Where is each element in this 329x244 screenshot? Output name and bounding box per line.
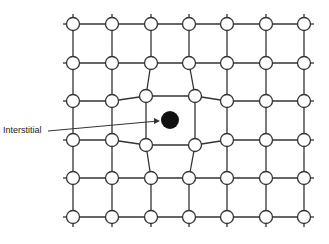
lattice-atom <box>298 134 311 147</box>
pointer-arrow-line <box>48 121 158 131</box>
lattice-atom <box>298 95 311 108</box>
lattice-atom <box>260 211 273 224</box>
lattice-atom <box>183 57 196 70</box>
interstitial-atom <box>161 111 179 129</box>
lattice-atom <box>221 211 234 224</box>
lattice-atom <box>106 211 119 224</box>
lattice-atom <box>298 211 311 224</box>
lattice-atom <box>260 172 273 185</box>
lattice-atom <box>221 172 234 185</box>
lattice-atom <box>106 95 119 108</box>
lattice-atom <box>260 134 273 147</box>
lattice-atom <box>183 172 196 185</box>
lattice-atom <box>145 18 158 31</box>
lattice-atom <box>189 139 202 152</box>
lattice-atom <box>189 90 202 103</box>
lattice-atom <box>260 95 273 108</box>
lattice-atom <box>145 211 158 224</box>
lattice-atom <box>183 211 196 224</box>
lattice-atom <box>140 90 153 103</box>
lattice-atom <box>140 139 153 152</box>
lattice-atom <box>67 57 80 70</box>
lattice-atom <box>298 172 311 185</box>
lattice-atom <box>106 18 119 31</box>
lattice-atom <box>145 172 158 185</box>
lattice-atom <box>298 57 311 70</box>
lattice-atom <box>221 95 234 108</box>
interstitial-label: Interstitial <box>3 125 42 135</box>
lattice-atom <box>67 172 80 185</box>
lattice-atom <box>106 57 119 70</box>
lattice-atom <box>183 18 196 31</box>
lattice-atom <box>67 134 80 147</box>
lattice-atom <box>260 18 273 31</box>
lattice-atom <box>67 18 80 31</box>
crystal-lattice-diagram <box>0 0 329 244</box>
arrowhead-icon <box>154 118 160 124</box>
lattice-atom <box>221 57 234 70</box>
lattice-atom <box>145 57 158 70</box>
lattice-atom <box>221 134 234 147</box>
lattice-atom <box>106 134 119 147</box>
lattice-atom <box>67 95 80 108</box>
lattice-atom <box>260 57 273 70</box>
lattice-atom <box>106 172 119 185</box>
lattice-atom <box>221 18 234 31</box>
lattice-atom <box>298 18 311 31</box>
lattice-atom <box>67 211 80 224</box>
